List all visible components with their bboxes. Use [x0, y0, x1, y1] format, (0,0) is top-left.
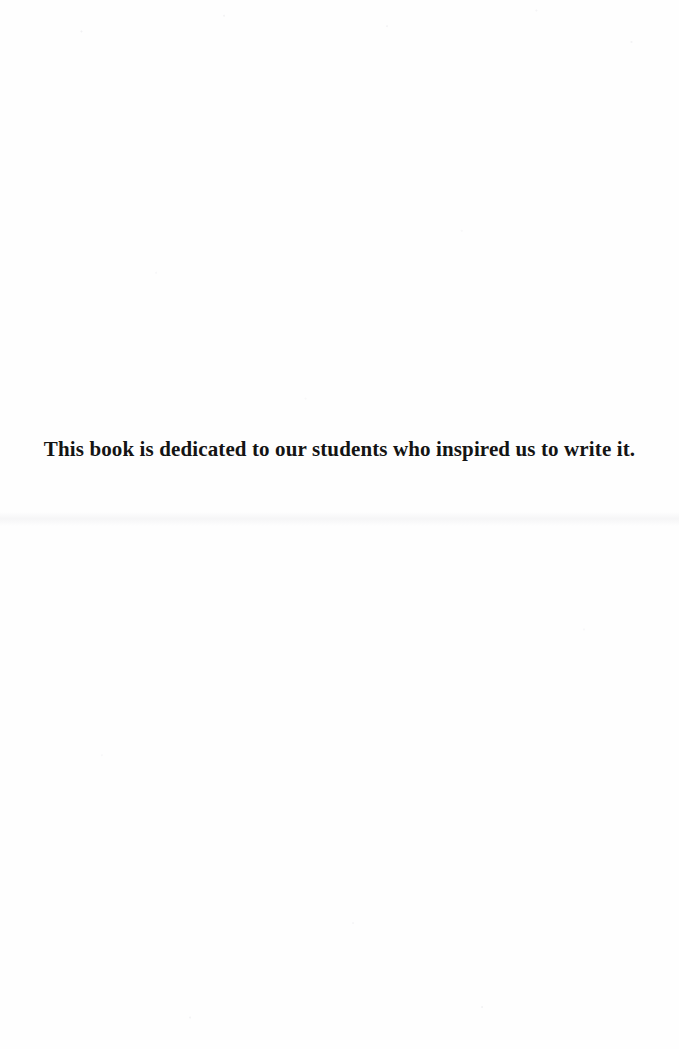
- dedication-text: This book is dedicated to our students w…: [44, 436, 635, 462]
- dedication-block: This book is dedicated to our students w…: [0, 436, 679, 462]
- book-page: This book is dedicated to our students w…: [0, 0, 679, 1049]
- scan-grain-texture: [0, 0, 679, 1049]
- scan-smudge-band: [0, 512, 679, 526]
